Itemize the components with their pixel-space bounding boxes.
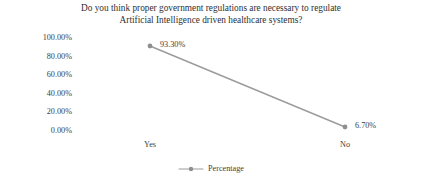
y-axis-tick-label: 100.00%: [0, 33, 72, 42]
y-axis-tick-label: 60.00%: [0, 70, 72, 79]
x-axis: Yes No: [72, 140, 412, 154]
chart-title: Do you think proper government regulatio…: [66, 2, 356, 27]
legend-item-label: Percentage: [208, 164, 244, 173]
y-axis-tick-label: 40.00%: [0, 89, 72, 98]
chart-container: Do you think proper government regulatio…: [0, 0, 422, 183]
chart-legend: Percentage: [0, 164, 422, 173]
data-label-yes: 93.30%: [160, 40, 185, 49]
y-axis-tick-label: 80.00%: [0, 52, 72, 61]
data-label-no: 6.70%: [355, 121, 376, 130]
x-axis-tick-label-yes: Yes: [144, 140, 156, 149]
y-axis-tick-label: 0.00%: [0, 126, 72, 135]
data-point-marker-no: [343, 125, 348, 130]
x-axis-tick-label-no: No: [340, 140, 350, 149]
plot-area: 93.30% 6.70%: [72, 37, 412, 135]
legend-item-percentage[interactable]: Percentage: [178, 164, 244, 173]
data-point-marker-yes: [148, 44, 153, 49]
y-axis-tick-label: 20.00%: [0, 107, 72, 116]
legend-line-marker-icon: [178, 165, 204, 173]
series-line-segment: [150, 46, 345, 127]
y-axis: 100.00% 80.00% 60.00% 40.00% 20.00% 0.00…: [0, 33, 72, 135]
